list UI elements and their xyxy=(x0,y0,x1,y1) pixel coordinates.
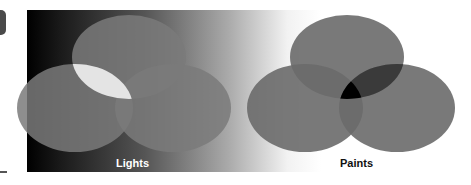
lights-venn xyxy=(17,15,231,152)
paints-venn xyxy=(247,15,455,152)
paints-label: Paints xyxy=(340,157,373,169)
lights-circle-right xyxy=(115,64,231,152)
lights-label: Lights xyxy=(116,157,149,169)
venn-diagrams xyxy=(0,0,471,185)
